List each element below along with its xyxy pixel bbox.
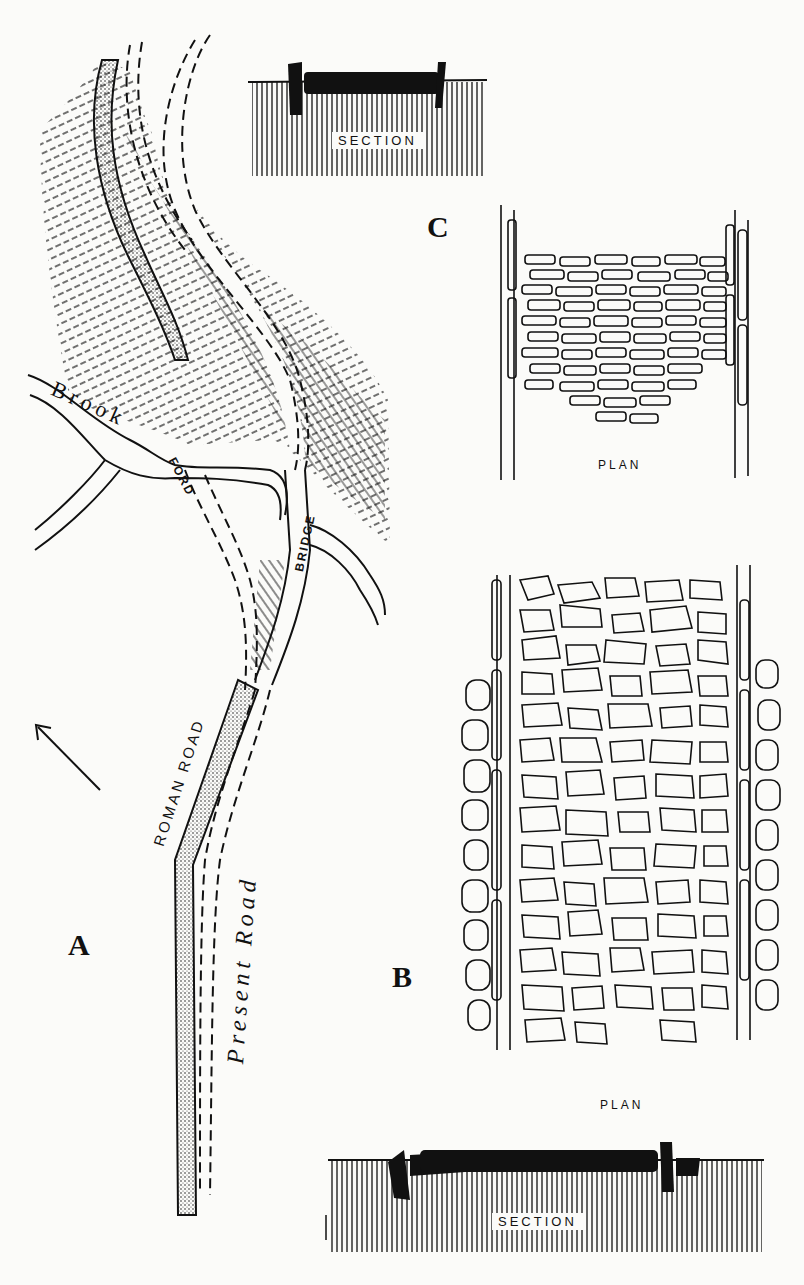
panel-b-section-label: SECTION xyxy=(492,1213,583,1230)
panel-c-plan xyxy=(501,205,748,480)
panel-c-section-label: SECTION xyxy=(332,132,423,149)
panel-label-c: C xyxy=(427,210,449,244)
panel-b-section xyxy=(326,1142,764,1252)
panel-c-plan-label: PLAN xyxy=(598,458,641,472)
panel-b-plan-label: PLAN xyxy=(600,1098,643,1112)
panel-b-plan xyxy=(462,565,780,1050)
figure-drawing xyxy=(0,0,804,1285)
map-a xyxy=(28,35,390,1215)
panel-label-b: B xyxy=(392,960,412,994)
north-arrow-icon xyxy=(36,725,100,790)
panel-c-section xyxy=(248,62,487,176)
panel-label-a: A xyxy=(68,928,90,962)
